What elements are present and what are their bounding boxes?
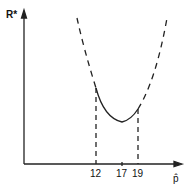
x-axis-arrow (174, 162, 182, 167)
dashed-right-curve (138, 18, 167, 109)
x-axis-label: p̂ (173, 173, 179, 184)
tick-label-17: 17 (116, 168, 127, 179)
y-axis-arrow (22, 10, 27, 18)
y-axis-label: R* (6, 9, 17, 20)
tick-label-12: 12 (90, 168, 101, 179)
dashed-left-curve (77, 18, 96, 88)
chart-canvas (0, 0, 191, 188)
tick-label-19: 19 (132, 168, 143, 179)
solid-curve (96, 88, 138, 122)
